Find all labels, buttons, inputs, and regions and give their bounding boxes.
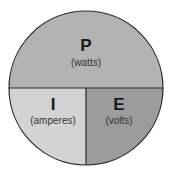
- current-symbol: I: [33, 96, 73, 114]
- power-wheel-diagram: [0, 0, 170, 177]
- power-unit: (watts): [56, 57, 116, 69]
- voltage-symbol: E: [99, 96, 139, 114]
- current-unit: (amperes): [23, 115, 83, 127]
- power-symbol: P: [66, 37, 106, 55]
- voltage-unit: (volts): [94, 115, 144, 127]
